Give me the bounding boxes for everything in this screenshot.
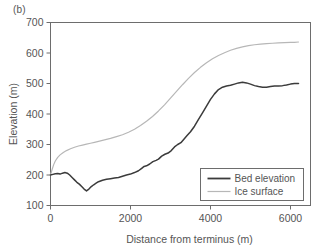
y-tick-label: 700 (26, 16, 44, 28)
y-axis-title: Elevation (m) (7, 83, 19, 145)
x-tick-label: 4000 (199, 212, 223, 224)
elevation-profile-chart: 1002003004005006007000200040006000Distan… (0, 0, 323, 249)
legend-label-ice-surface: Ice surface (235, 186, 284, 197)
panel-label: (b) (13, 4, 26, 15)
series-line-ice-surface (51, 42, 299, 175)
x-tick-label: 2000 (119, 212, 143, 224)
figure-panel-b: (b) 1002003004005006007000200040006000Di… (0, 0, 323, 249)
y-tick-label: 300 (26, 138, 44, 150)
y-tick-label: 200 (26, 169, 44, 181)
y-tick-label: 100 (26, 199, 44, 211)
x-tick-label: 6000 (279, 212, 303, 224)
legend-label-bed-elevation: Bed elevation (235, 173, 296, 184)
x-tick-label: 0 (48, 212, 54, 224)
y-tick-label: 500 (26, 77, 44, 89)
y-tick-label: 400 (26, 108, 44, 120)
y-tick-label: 600 (26, 47, 44, 59)
x-axis-title: Distance from terminus (m) (126, 233, 253, 245)
